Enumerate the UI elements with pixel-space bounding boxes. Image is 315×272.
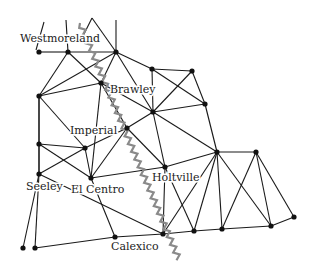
network-nodes [20, 49, 296, 250]
label-westmoreland: Westmoreland [20, 32, 100, 45]
node-W [112, 234, 117, 239]
edge-S-T [222, 226, 271, 229]
edge-F-H [152, 69, 205, 104]
node-D [98, 80, 103, 85]
label-brawley: Brawley [110, 83, 156, 96]
node-T [219, 226, 224, 231]
node-V [160, 231, 165, 236]
node-K [82, 145, 87, 150]
edge-E-K [39, 96, 85, 148]
node-O [162, 164, 167, 169]
node-E [36, 93, 41, 98]
edge-D-E [39, 83, 101, 96]
node-J [124, 125, 129, 130]
edge-V-W [115, 234, 163, 237]
label-imperial: Imperial [70, 124, 118, 137]
label-seeley: Seeley [26, 180, 64, 193]
edge-B-E [39, 52, 68, 96]
edge-R-S [271, 217, 294, 226]
edge-T-U [194, 229, 222, 231]
edge-H-I [153, 104, 205, 112]
label-el-centro: El [71, 183, 83, 196]
node-C [113, 49, 118, 54]
edge-Q-T [222, 152, 256, 229]
edge-P-U [194, 152, 217, 231]
node-X [32, 245, 37, 250]
label-calexico: Calexico [111, 240, 159, 253]
node-A [36, 49, 41, 54]
edge-F-G [152, 69, 192, 71]
node-F [149, 66, 154, 71]
network-edges [23, 52, 294, 248]
edge-I-O [153, 112, 165, 167]
node-H [202, 101, 207, 106]
map-diagram: WestmorelandWestmorelandBrawleyBrawleyIm… [0, 0, 315, 272]
edge-H-P [205, 104, 217, 152]
node-R [291, 214, 296, 219]
node-Y [20, 245, 25, 250]
edge-P-T [217, 152, 222, 229]
node-G [189, 68, 194, 73]
label-centro: Centro [86, 183, 125, 196]
node-I [150, 109, 155, 114]
node-M [36, 171, 41, 176]
edge-K-L [39, 144, 85, 148]
node-N [88, 175, 93, 180]
label-holtville: Holtville [152, 171, 199, 184]
edge-K-N [85, 148, 91, 178]
node-Q [253, 149, 258, 154]
node-U [191, 228, 196, 233]
node-P [214, 149, 219, 154]
node-S [268, 223, 273, 228]
edge-W-X [35, 237, 115, 248]
edge-Q-R [256, 152, 294, 217]
edge-I-P [153, 112, 217, 152]
edge-I-J [127, 112, 153, 128]
node-B [65, 49, 70, 54]
node-L [36, 141, 41, 146]
